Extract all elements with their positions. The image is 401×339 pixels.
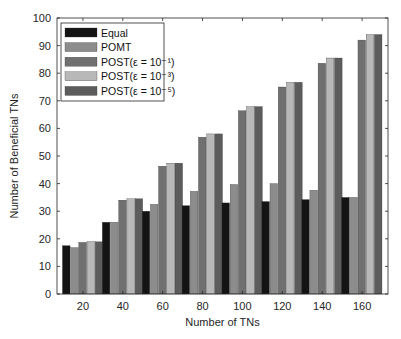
y-tick-label: 100 (33, 12, 51, 24)
bar-post-10--160 (374, 35, 382, 294)
bar-post-10--80 (198, 137, 206, 294)
y-tick-label: 80 (39, 67, 51, 79)
x-tick-label: 120 (273, 300, 291, 312)
y-tick-label: 0 (45, 288, 51, 300)
legend-entry: POMT (101, 41, 132, 53)
y-tick-label: 50 (39, 150, 51, 162)
bar-post-10--120 (295, 82, 303, 294)
bar-post-10--20 (79, 242, 87, 294)
bar-post-10--40 (119, 200, 127, 294)
y-tick-label: 90 (39, 40, 51, 52)
x-tick-label: 40 (117, 300, 129, 312)
bar-post-10--60 (175, 163, 183, 294)
bar-equal-100 (222, 203, 230, 294)
legend-swatch (65, 86, 97, 95)
bar-pomt-20 (71, 248, 79, 294)
y-tick-label: 40 (39, 178, 51, 190)
x-tick-label: 80 (196, 300, 208, 312)
bar-post-10--120 (286, 82, 294, 294)
legend: EqualPOMTPOST(ε = 10⁻¹)POST(ε = 10⁻³)POS… (61, 23, 175, 101)
bar-equal-160 (342, 197, 350, 294)
x-tick-label: 140 (313, 300, 331, 312)
bar-post-10--140 (334, 58, 342, 294)
x-tick-label: 100 (233, 300, 251, 312)
legend-entry: POST(ε = 10⁻⁵) (101, 85, 175, 97)
bar-post-10--120 (278, 87, 286, 294)
bar-post-10--40 (135, 199, 143, 294)
y-tick-label: 20 (39, 233, 51, 245)
bar-post-10--40 (127, 199, 135, 294)
bar-post-10--100 (238, 111, 246, 294)
bar-pomt-160 (350, 197, 358, 294)
bar-pomt-80 (190, 191, 198, 294)
y-tick-label: 10 (39, 260, 51, 272)
bar-post-10--160 (358, 40, 366, 294)
bar-equal-20 (62, 246, 70, 294)
bar-post-10--80 (215, 134, 223, 294)
legend-swatch (65, 57, 97, 66)
legend-entry: Equal (101, 27, 128, 39)
bar-pomt-140 (310, 190, 318, 294)
bar-pomt-120 (270, 184, 278, 294)
bar-equal-60 (142, 211, 150, 294)
legend-entry: POST(ε = 10⁻³) (101, 70, 174, 82)
legend-swatch (65, 28, 97, 37)
bar-pomt-100 (230, 184, 238, 294)
y-axis-label: Number of Beneficial TNs (8, 93, 20, 219)
legend-swatch (65, 43, 97, 52)
x-tick-label: 20 (77, 300, 89, 312)
bar-post-10--100 (255, 107, 263, 294)
bar-pomt-60 (150, 204, 158, 294)
bar-post-10--160 (366, 35, 374, 294)
bar-equal-40 (102, 222, 110, 294)
bar-pomt-40 (111, 222, 119, 294)
bar-post-10--140 (318, 63, 326, 294)
legend-entry: POST(ε = 10⁻¹) (101, 56, 174, 68)
legend-swatch (65, 72, 97, 81)
bar-post-10--60 (159, 166, 167, 294)
bar-equal-120 (262, 202, 270, 294)
bar-chart: 2040608010012014016001020304050607080901… (0, 0, 401, 339)
bar-post-10--20 (95, 242, 103, 294)
bar-post-10--60 (167, 163, 175, 294)
bar-equal-140 (302, 200, 310, 294)
bar-post-10--20 (87, 242, 95, 294)
y-tick-label: 30 (39, 205, 51, 217)
bar-equal-80 (182, 206, 190, 294)
y-tick-label: 60 (39, 122, 51, 134)
x-axis-label: Number of TNs (185, 316, 260, 328)
x-tick-label: 60 (157, 300, 169, 312)
bar-post-10--80 (207, 134, 215, 294)
y-tick-label: 70 (39, 95, 51, 107)
bar-post-10--100 (247, 107, 255, 294)
x-tick-label: 160 (353, 300, 371, 312)
bar-post-10--140 (326, 58, 334, 294)
